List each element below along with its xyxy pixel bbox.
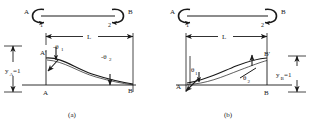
deflection-label-a: y	[5, 67, 9, 75]
theta2-sub-a: 2	[109, 57, 112, 62]
dimension-label-L-b: L	[222, 33, 226, 41]
caption-a: (a)	[68, 111, 76, 119]
dimension-label-L-a: L	[87, 33, 91, 41]
moment-label-A-a: A	[24, 8, 29, 16]
theta1-sub-a: 1	[61, 47, 64, 52]
theta1-sub-b: 1	[195, 71, 198, 76]
panel-a-deflection-indicator: y A =1	[4, 46, 22, 92]
deflection-value-a: =1	[13, 67, 21, 75]
theta1-tangent-a	[48, 60, 58, 71]
panel-b: A B 1 2 L y B =1	[170, 8, 306, 120]
theta1-label-a: -θ	[53, 43, 59, 51]
panel-a: A B 1 2 L y A =1	[4, 8, 136, 120]
node-label-A-a: A	[43, 89, 48, 97]
moment-label-B-a: B	[128, 8, 133, 16]
figure-canvas: A B 1 2 L y A =1	[0, 0, 313, 126]
deflection-label-b: y	[276, 71, 280, 79]
moment-label-B-b: B	[281, 8, 286, 16]
node-label-B-prime-b: B'	[264, 50, 270, 58]
deflection-value-b: =1	[284, 71, 292, 79]
node-label-B-a: B	[128, 87, 133, 95]
panel-a-moment-diagram: A B 1 2	[24, 8, 133, 28]
moment-label-2-a: 2	[108, 22, 111, 28]
moment-label-2-b: 2	[261, 22, 264, 28]
node-label-A-prime-a: A'	[40, 49, 46, 57]
panel-b-deflection-indicator: y B =1	[276, 56, 306, 92]
elastic-curve-a	[46, 58, 133, 84]
moment-label-1-b: 1	[186, 22, 189, 28]
moment-label-1-a: 1	[40, 22, 43, 28]
moment-label-A-b: A	[170, 8, 175, 16]
beam-deflection-figure: A B 1 2 L y A =1	[0, 0, 313, 126]
theta2-label-a: -θ	[101, 53, 107, 61]
node-label-B-b: B	[264, 89, 269, 97]
caption-b: (b)	[224, 111, 233, 119]
theta2-sub-b: 2	[248, 79, 251, 84]
panel-b-moment-diagram: A B 1 2	[170, 8, 286, 28]
node-label-A-b: A	[176, 83, 181, 91]
theta2-label-b: θ	[243, 74, 247, 82]
